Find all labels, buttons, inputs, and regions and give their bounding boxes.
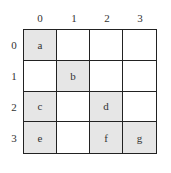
grid-cell: f: [90, 122, 123, 153]
row-label-3: 3: [9, 122, 19, 154]
matrix-grid: a b c d e f g: [23, 29, 157, 154]
grid-cell: c: [24, 92, 57, 123]
grid-cell: [90, 30, 123, 61]
grid-cell: [57, 92, 90, 123]
col-label-1: 1: [57, 12, 91, 24]
grid-cell: [57, 30, 90, 61]
grid-cell: [24, 61, 57, 92]
grid-cell: [123, 61, 156, 92]
grid-cell: [90, 61, 123, 92]
grid-cell: g: [123, 122, 156, 153]
col-label-2: 2: [90, 12, 124, 24]
grid-cell: [123, 92, 156, 123]
row-label-1: 1: [9, 60, 19, 92]
grid-cell: b: [57, 61, 90, 92]
grid-cell: d: [90, 92, 123, 123]
row-label-0: 0: [9, 29, 19, 61]
col-label-3: 3: [123, 12, 157, 24]
row-label-2: 2: [9, 91, 19, 123]
grid-cell: a: [24, 30, 57, 61]
grid-cell: [123, 30, 156, 61]
col-label-0: 0: [23, 12, 57, 24]
grid-cell: e: [24, 122, 57, 153]
grid-cell: [57, 122, 90, 153]
